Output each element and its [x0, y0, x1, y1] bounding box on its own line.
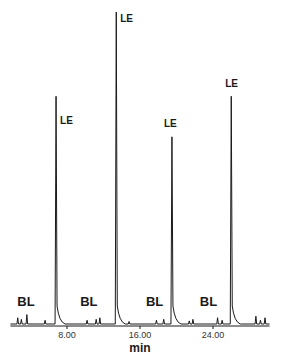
chromatogram-trace — [10, 12, 269, 324]
chromatogram-chart: 8.0016.0024.00 LELELELE BLBLBLBL min — [0, 0, 281, 359]
x-tick-label: 8.00 — [58, 330, 76, 340]
peak-label: LE — [225, 78, 238, 89]
baseline-annotation: BL — [17, 294, 34, 309]
peak-label: LE — [60, 115, 73, 126]
peak-label: LE — [164, 118, 177, 129]
baseline-annotation: BL — [80, 294, 97, 309]
peak-label: LE — [120, 13, 133, 24]
baseline-annotation: BL — [146, 294, 163, 309]
baseline-annotation: BL — [200, 294, 217, 309]
x-tick-label: 24.00 — [202, 330, 225, 340]
x-axis-title: min — [129, 341, 150, 355]
x-tick-label: 16.00 — [129, 330, 152, 340]
